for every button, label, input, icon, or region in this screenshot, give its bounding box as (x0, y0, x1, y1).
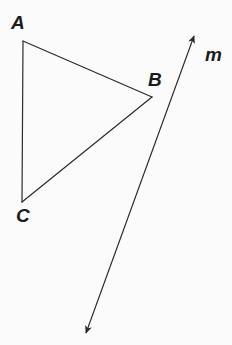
line-label-m: m (205, 45, 222, 64)
vertex-label-a: A (11, 13, 25, 32)
vertex-label-b: B (148, 70, 162, 89)
vertex-label-c: C (16, 206, 30, 225)
figure-canvas (0, 0, 232, 345)
triangle-edges (22, 41, 152, 202)
geometry-figure: A B C m (0, 0, 232, 345)
line-m-group (86, 36, 194, 333)
triangle-edge-bc (22, 97, 152, 202)
line-m-stroke (86, 36, 194, 333)
triangle-edge-ca (22, 41, 23, 202)
triangle-edge-ab (23, 41, 152, 97)
